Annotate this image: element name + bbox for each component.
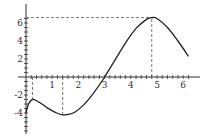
x-tick-label: 4 [128,80,134,90]
x-tick-label: 3 [102,80,108,90]
x-tick-label: 2 [76,80,82,90]
function-curve [26,17,188,114]
y-tick-label: -2 [14,90,23,100]
x-tick-label: 5 [154,80,160,90]
y-tick-label: -4 [14,108,23,118]
x-tick-label: 6 [180,80,186,90]
y-tick-label: 2 [17,54,23,64]
function-graph: 123456642-2-4 [0,0,212,138]
x-tick-label: 1 [49,80,55,90]
y-tick-label: 6 [17,18,23,28]
y-tick-label: 4 [17,36,23,46]
